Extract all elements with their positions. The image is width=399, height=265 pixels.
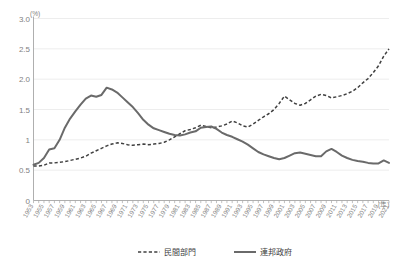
- y-tick-label-1.5: 1.5: [19, 106, 31, 115]
- x-tick-labels: 1953195519571959196119631965196719691971…: [21, 203, 390, 219]
- legend-label-private-sector: 民間部門: [164, 247, 196, 257]
- series-line-private-sector: [34, 49, 390, 166]
- y-tick-label-0.5: 0.5: [19, 166, 31, 175]
- y-tick-label-3.0: 3.0: [19, 15, 31, 24]
- data-series: [34, 49, 390, 166]
- line-chart: 00.511.52.02.53.0 1953195519571959196119…: [0, 0, 399, 265]
- y-axis-unit-label: (%): [30, 10, 40, 18]
- y-tick-label-1: 1: [26, 136, 31, 145]
- series-line-federal-government: [34, 88, 390, 165]
- legend-label-federal-government: 連邦政府: [260, 247, 292, 257]
- chart-legend: 民間部門連邦政府: [138, 247, 292, 257]
- chart-container: 00.511.52.02.53.0 1953195519571959196119…: [0, 0, 399, 265]
- y-tick-label-2.5: 2.5: [19, 45, 31, 54]
- gridlines: [34, 19, 390, 171]
- y-tick-labels: 00.511.52.02.53.0: [19, 15, 31, 206]
- x-axis: [34, 201, 390, 204]
- y-tick-label-2.0: 2.0: [19, 75, 31, 84]
- x-axis-unit-label: (年): [378, 200, 389, 209]
